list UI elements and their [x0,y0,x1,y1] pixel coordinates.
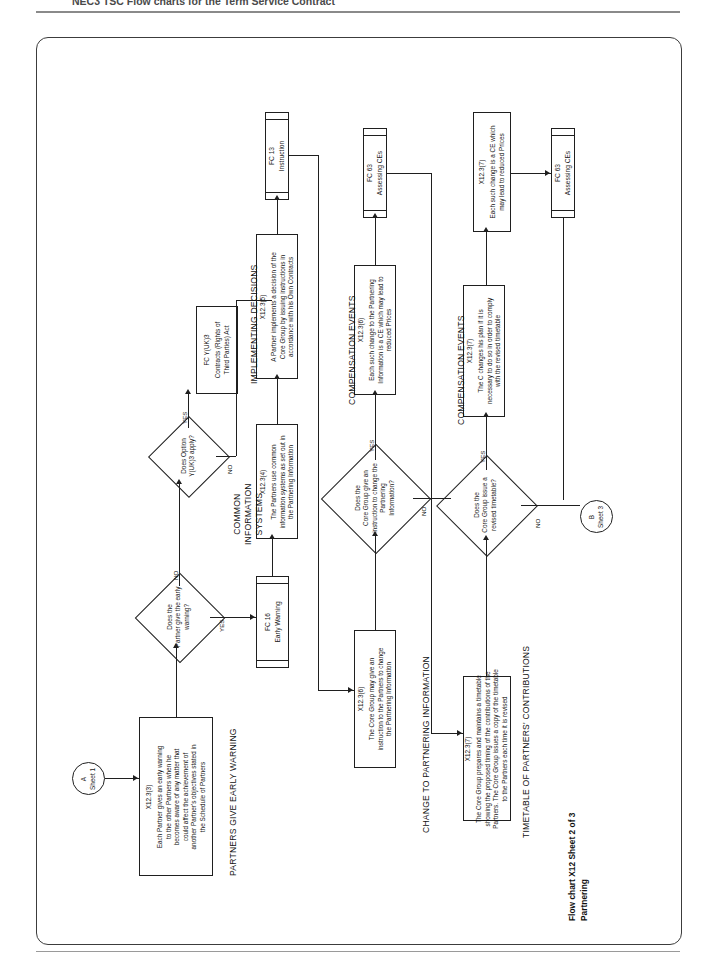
arrow-x1235-to-fc13 [274,195,280,200]
line-fc63a-right [387,173,432,174]
node-x12-3-7-timetable-text: X12.3(7)The Core Group prepares and main… [464,669,509,829]
decision-instruction-change-text: Does the Core Group give an instruction … [354,463,396,533]
section-label-common-information-systems: COMMON INFORMATION SYSTEMS [232,483,266,545]
arrow-dinstr-yes [372,390,378,395]
connector-b-label: BSheet 3 [588,505,605,527]
decision-revised-timetable-text: Does the Core Group issue a revised time… [473,477,498,532]
arrow-dew-no [176,479,182,484]
branch-label-yuk3-yes: YES [181,412,188,424]
arrow-ce-to-fc63b [545,170,550,176]
branch-label-yuk3-no: NO [226,465,233,474]
node-x12-3-5: X12.3(5)A Partner implements a decision … [256,234,298,379]
page-header: NEC3 TSC Flow charts for the Term Servic… [0,0,715,16]
node-fc-yuk3: FC Y(UK)3Contracts (Rights of Third Part… [196,306,238,394]
branch-label-instr-yes: YES [368,440,375,452]
node-fc63-b-text: FC 63 Assessing CEs [553,151,572,195]
node-fc63-a-text: FC 63 Assessing CEs [365,151,384,195]
line-yuk3-yes [188,394,189,428]
line-dinstr-yes [375,395,376,460]
node-fc-yuk3-text: FC Y(UK)3Contracts (Rights of Third Part… [203,322,231,378]
node-x12-3-7-changes-text: X12.3(7)The C changes his plan if it is … [466,298,503,404]
node-x12-3-7-ce: X12.3(7)Each such change is a CE which m… [473,112,511,232]
node-fc63-b: FC 63 Assessing CEs [551,128,575,218]
branch-label-timetable-no: NO [534,519,541,528]
node-x12-3-6-ce: X12.3(6)Each such change to the Partneri… [354,265,396,395]
node-fc16-text: FC 16 Early Warning [263,601,282,642]
arrow-dew-yes [250,614,255,620]
line-yuk3-box-up [236,300,237,398]
line-drev-yes [486,417,487,470]
arrow-x1234-to-x1235 [274,374,280,379]
decision-early-warning: Does the Partner give the early warning? [148,586,210,648]
branch-label-timetable-yes: YES [479,451,486,463]
decision-early-warning-text: Does the Partner give the early warning? [166,587,191,648]
decision-option-yuk3-text: Does Option Y(UK)3 apply? [180,435,197,477]
connector-a-label: ASheet 1 [80,767,97,789]
section-label-compensation-events-2: COMPENSATION EVENTS [456,315,466,425]
caption-line-1: Flow chart X12 Sheet 2 of 3 [567,813,577,921]
node-x12-3-6-ce-text: X12.3(6)Each such change to the Partneri… [357,276,394,383]
connector-a: ASheet 1 [72,762,105,795]
node-x12-3-7-timetable: X12.3(7)The Core Group prepares and main… [463,676,511,821]
arrow-a-to-x1233 [133,775,138,781]
node-fc16: FC 16 Early Warning [256,576,289,668]
arrow-into-timetable [457,730,462,736]
diagram-caption: Flow chart X12 Sheet 2 of 3 Partnering [566,813,590,921]
line-fc16-to-x1234 [272,539,273,576]
decision-option-yuk3: Does Option Y(UK)3 apply? [160,428,216,484]
decision-instruction-change: Does the Core Group give an instruction … [337,460,413,536]
line-fc13-down [318,155,319,690]
node-x12-3-3: X12.3(3)Each Partner gives an early warn… [139,717,213,876]
header-title: NEC3 TSC Flow charts for the Term Servic… [72,0,335,7]
line-drev-no [521,505,580,506]
arrow-x1233-to-dew [173,643,179,648]
line-timetable-to-drev [486,540,487,676]
line-dew-no [179,484,180,586]
line-yuk3-no-h [216,456,236,457]
connector-b: BSheet 3 [580,500,613,533]
footer-rule [36,951,680,952]
caption-line-2: Partnering [579,879,589,921]
node-x12-3-5-text: X12.3(5)A Partner implements a decision … [259,252,296,361]
node-x12-3-3-text: X12.3(3)Each Partner gives an early warn… [145,744,207,849]
branch-label-ew-no: NO [172,571,179,580]
node-fc63-a: FC 63 Assessing CEs [363,128,387,218]
arrow-fc16-to-x1234 [269,534,275,539]
arrow-yuk3-yes [185,389,191,394]
branch-label-ew-yes: YES [218,620,225,632]
decision-revised-timetable: Does the Core Group issue a revised time… [451,470,521,540]
node-fc13: FC 13 Instruction [265,112,289,200]
arrow-drev-yes [483,412,489,417]
line-yuk3-no-v [236,398,237,456]
line-changes-to-ce [486,232,487,285]
node-x12-3-6-core-group: X12.3(6)The Core Group may give an instr… [354,630,396,768]
line-x1233-to-dew [176,648,177,717]
section-label-implementing-decisions: IMPLEMENTING DECISIONS [249,265,259,384]
section-label-timetable-of-partners-contributions: TIMETABLE OF PARTNERS' CONTRIBUTIONS [521,646,531,838]
arrow-x1236cg-to-dinstr [372,531,378,536]
section-label-change-to-partnering-information: CHANGE TO PARTNERING INFORMATION [421,656,431,833]
branch-label-instr-no: NO [420,507,427,516]
line-fc63a-down [431,173,432,733]
line-x1235-to-fc13 [277,200,278,234]
line-fc13-right [289,155,319,156]
section-label-compensation-events-1: COMPENSATION EVENTS [347,295,357,405]
section-label-partners-give-early-warning: PARTNERS GIVE EARLY WARNING [228,728,238,876]
arrow-changes-to-ce [483,227,489,232]
line-fc63b-down [563,218,564,500]
line-x1236cg-to-dinstr [375,536,376,630]
arrow-into-x1236cg [348,687,353,693]
node-fc13-text: FC 13 Instruction [267,141,286,171]
node-x12-3-7-changes: X12.3(7)The C changes his plan if it is … [463,285,505,417]
line-x1234-to-x1235 [277,379,278,424]
node-x12-3-6-core-group-text: X12.3(6)The Core Group may give an instr… [357,648,394,751]
arrow-timetable-to-drev [483,535,489,540]
arrow-x1236ce-to-fc63a [372,213,378,218]
node-x12-3-7-ce-text: X12.3(7)Each such change is a CE which m… [478,125,506,218]
header-rule [36,11,680,13]
line-x1236ce-to-fc63a [375,218,376,265]
